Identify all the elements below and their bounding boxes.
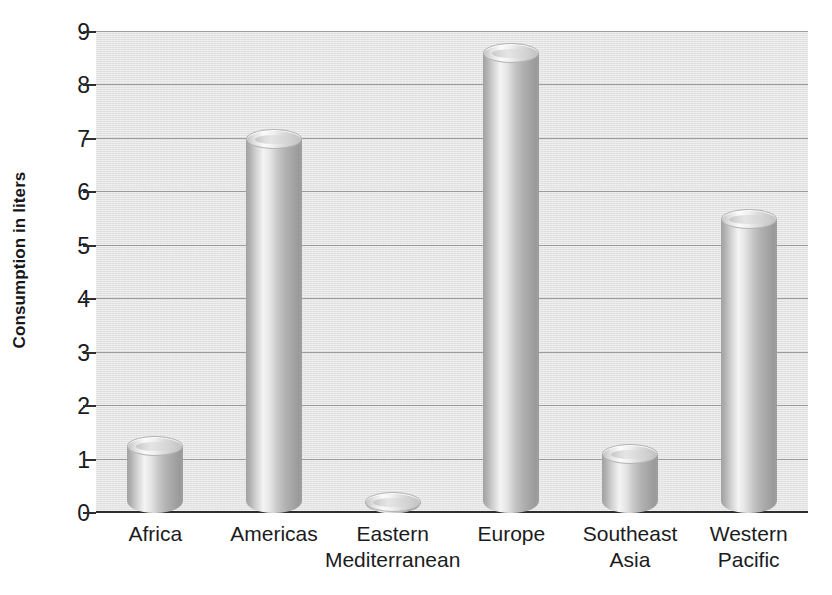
y-axis-tick-mark xyxy=(83,138,96,140)
gridline xyxy=(96,84,808,85)
gridline xyxy=(96,459,808,460)
gridline xyxy=(96,405,808,406)
bar-top-inner-rim xyxy=(492,49,531,58)
bar-top-ellipse xyxy=(721,209,777,229)
gridline xyxy=(96,191,808,192)
bar-top-inner-rim xyxy=(255,135,294,144)
bar-top-inner-rim xyxy=(373,498,412,507)
y-axis-tick-mark xyxy=(83,459,96,461)
y-axis-title: Consumption in liters xyxy=(0,0,40,520)
bar-body xyxy=(127,446,183,513)
y-axis-tick-mark xyxy=(83,191,96,193)
x-axis-tick-label: Western Pacific xyxy=(669,521,828,572)
gridline xyxy=(96,298,808,299)
y-axis-tick-mark xyxy=(83,245,96,247)
bar-top-inner-rim xyxy=(611,450,650,459)
y-axis-tick-mark xyxy=(83,298,96,300)
x-axis-baseline xyxy=(96,511,808,513)
bar[interactable] xyxy=(365,492,421,513)
y-axis-tick-mark xyxy=(83,31,96,33)
bar-top-inner-rim xyxy=(136,442,175,451)
bar-top-ellipse xyxy=(246,129,302,149)
bar[interactable] xyxy=(483,43,539,513)
bar-body xyxy=(246,139,302,513)
gridline xyxy=(96,31,808,32)
gridline xyxy=(96,352,808,353)
bar-body xyxy=(483,53,539,513)
bar[interactable] xyxy=(721,209,777,513)
bar-top-inner-rim xyxy=(729,215,768,224)
plot-area xyxy=(96,32,808,513)
bar-body xyxy=(721,219,777,513)
y-axis-tick-mark xyxy=(83,84,96,86)
gridline xyxy=(96,138,808,139)
bar[interactable] xyxy=(602,444,658,513)
bar[interactable] xyxy=(246,129,302,513)
y-axis-title-text: Consumption in liters xyxy=(10,172,30,349)
gridline xyxy=(96,245,808,246)
y-axis-tick-mark xyxy=(83,352,96,354)
bar-chart: Consumption in liters 0123456789 AfricaA… xyxy=(0,0,832,595)
y-axis-tick-mark xyxy=(83,512,96,514)
bar[interactable] xyxy=(127,436,183,513)
y-axis-tick-mark xyxy=(83,405,96,407)
